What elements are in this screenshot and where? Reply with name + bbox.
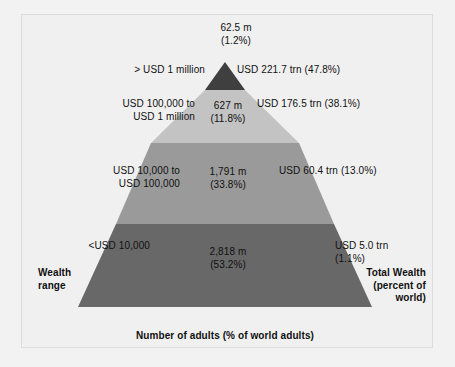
tier-1-adults-label: 62.5 m (1.2%) xyxy=(186,22,286,47)
tier-4-adults-label: 2,818 m (53.2%) xyxy=(178,246,278,271)
bottom-axis-caption: Number of adults (% of world adults) xyxy=(75,330,375,343)
tier-4-range-label: <USD 10,000 xyxy=(40,240,150,253)
wealth-pyramid-figure: 62.5 m (1.2%) 627 m (11.8%) 1,791 m (33.… xyxy=(0,0,455,367)
tier-2-range-label: USD 100,000 to USD 1 million xyxy=(70,98,195,123)
wealth-range-caption: Wealth range xyxy=(38,267,128,292)
tier-4-wealth-label: USD 5.0 trn (1.1%) xyxy=(335,240,425,265)
total-wealth-caption: Total Wealth (percent of world) xyxy=(330,267,426,305)
tier-2-wealth-label: USD 176.5 trn (38.1%) xyxy=(257,98,422,111)
tier-1-wealth-label: USD 221.7 trn (47.8%) xyxy=(237,64,412,77)
tier-3-adults-label: 1,791 m (33.8%) xyxy=(178,166,278,191)
tier-3-wealth-label: USD 60.4 trn (13.0%) xyxy=(279,165,429,178)
tier-1-range-label: > USD 1 million xyxy=(90,64,205,77)
tier-3-range-label: USD 10,000 to USD 100,000 xyxy=(50,165,180,190)
